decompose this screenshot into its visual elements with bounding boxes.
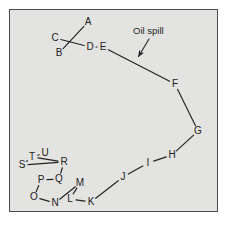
node-label-a: A	[85, 17, 92, 27]
node-label-j: J	[121, 172, 126, 182]
node-label-u: U	[41, 148, 48, 158]
node-label-b: B	[56, 48, 63, 58]
node-label-e: E	[100, 42, 107, 52]
node-label-r: R	[60, 157, 67, 167]
node-label-f: F	[172, 79, 178, 89]
node-label-c: C	[51, 33, 58, 43]
node-label-s: S	[19, 160, 26, 170]
node-label-n: N	[51, 198, 58, 208]
node-label-l: L	[67, 194, 73, 204]
node-label-q: Q	[55, 174, 63, 184]
node-label-t: T	[29, 152, 35, 162]
node-label-d: D	[86, 42, 93, 52]
node-label-m: M	[76, 178, 84, 188]
node-label-o: O	[30, 192, 38, 202]
node-label-i: I	[147, 158, 150, 168]
node-label-h: H	[168, 150, 175, 160]
oil-spill-annotation-label: Oil spill	[133, 26, 164, 36]
node-label-g: G	[194, 126, 202, 136]
node-label-p: P	[38, 175, 45, 185]
node-label-k: K	[88, 197, 95, 207]
figure-page: ABCDEFGHIJKLMNOPQRSTU Oil spill	[0, 0, 234, 227]
